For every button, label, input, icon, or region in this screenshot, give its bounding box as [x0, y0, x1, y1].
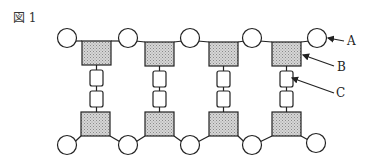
base-rect: [280, 91, 293, 107]
base-rect: [280, 71, 293, 87]
sugar-square: [272, 42, 301, 66]
base-rect: [153, 71, 166, 87]
base-rect: [90, 91, 103, 107]
arrow-C: [292, 78, 334, 93]
phosphate-circle: [119, 136, 138, 155]
phosphate-circle: [58, 29, 77, 48]
label-a: A: [347, 34, 356, 48]
label-b: B: [337, 60, 346, 74]
phosphate-circle: [308, 29, 327, 48]
sugar-square: [209, 42, 238, 66]
phosphate-circle: [119, 29, 138, 48]
base-rect: [153, 91, 166, 107]
dna-ladder-diagram: [0, 0, 371, 165]
label-c: C: [336, 86, 345, 100]
sugar-square: [272, 112, 301, 136]
sugar-square: [81, 112, 110, 136]
sugar-square: [145, 42, 174, 66]
phosphate-circle: [243, 29, 262, 48]
phosphate-circle: [181, 29, 200, 48]
phosphate-circle: [58, 136, 77, 155]
arrow-A: [328, 38, 344, 41]
arrow-B: [303, 55, 334, 66]
sugar-square: [82, 41, 111, 65]
base-rect: [217, 71, 230, 87]
sugar-square: [145, 112, 174, 136]
base-rect: [217, 91, 230, 107]
sugar-square: [209, 112, 238, 136]
phosphate-circle: [307, 134, 326, 153]
backbone-bond: [260, 136, 272, 142]
phosphate-circle: [243, 136, 262, 155]
base-rect: [90, 70, 103, 86]
phosphate-circle: [181, 136, 200, 155]
